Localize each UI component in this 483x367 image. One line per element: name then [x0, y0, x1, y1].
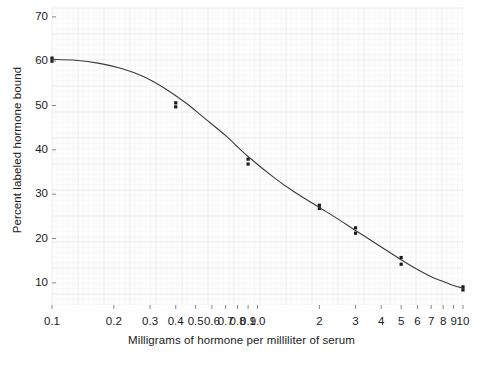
- y-tick-label: 60: [24, 54, 48, 66]
- x-tick-label: 0.1: [44, 315, 60, 327]
- x-tick-label: 7: [428, 315, 434, 327]
- x-tick-label: 1.0: [250, 315, 266, 327]
- y-axis-title: Percent labeled hormone bound: [11, 67, 23, 234]
- x-tick-label: 0.3: [142, 315, 158, 327]
- data-point: [247, 162, 250, 165]
- y-tick-label: 10: [24, 276, 48, 288]
- chart-canvas: [0, 0, 483, 367]
- x-tick-label: 2: [316, 315, 322, 327]
- x-tick-label: 6: [414, 315, 420, 327]
- y-tick-label: 40: [24, 143, 48, 155]
- x-tick-label: 3: [352, 315, 358, 327]
- x-axis-title: Milligrams of hormone per milliliter of …: [0, 334, 483, 346]
- data-point: [354, 232, 357, 235]
- chart-figure: Percent labeled hormone bound Milligrams…: [0, 0, 483, 367]
- data-point: [174, 105, 177, 108]
- x-tick-label: 10: [457, 315, 470, 327]
- x-tick-label: 4: [378, 315, 384, 327]
- x-tick-label: 0.2: [106, 315, 122, 327]
- x-tick-label: 0.5: [188, 315, 204, 327]
- y-tick-label: 70: [24, 10, 48, 22]
- data-point: [354, 226, 357, 229]
- data-point: [400, 263, 403, 266]
- y-tick-label: 30: [24, 187, 48, 199]
- x-tick-label: 8: [440, 315, 446, 327]
- y-tick-label: 20: [24, 232, 48, 244]
- data-point: [461, 288, 464, 291]
- data-point: [174, 101, 177, 104]
- x-tick-label: 0.4: [168, 315, 184, 327]
- y-tick-label: 50: [24, 99, 48, 111]
- x-tick-label: 5: [398, 315, 404, 327]
